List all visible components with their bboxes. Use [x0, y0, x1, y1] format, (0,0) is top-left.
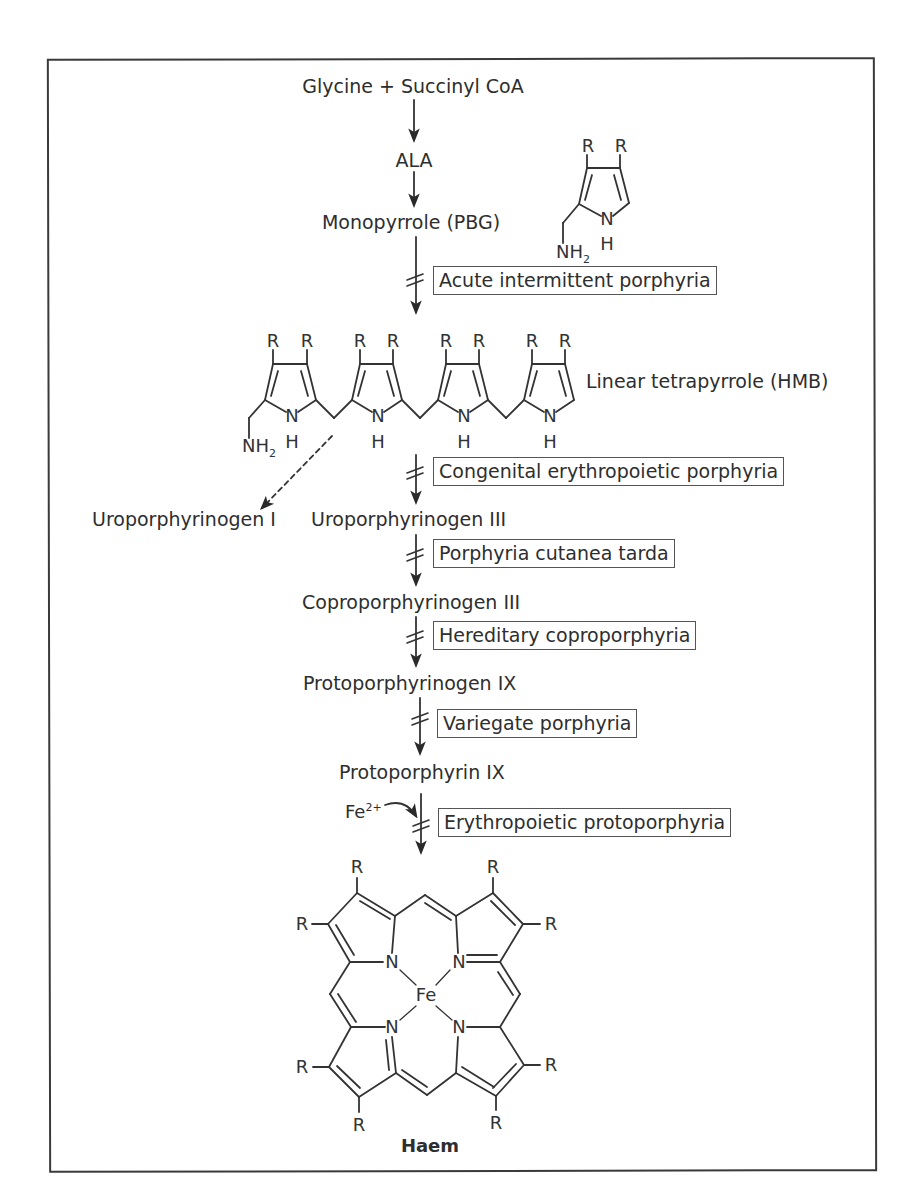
- atom-r: R: [545, 1055, 558, 1075]
- atom-n: N: [452, 1017, 465, 1037]
- porphyria-pathway-diagram: Glycine + Succinyl CoA ALA Monopyrrole (…: [0, 0, 918, 1197]
- step-coproporphyrinogen-iii: Coproporphyrinogen III: [302, 591, 520, 613]
- step-glycine-succinyl-coa: Glycine + Succinyl CoA: [302, 75, 523, 97]
- cofactor-charge: 2+: [365, 801, 381, 814]
- atom-r: R: [487, 857, 500, 877]
- atom-nh-label: NH: [556, 241, 583, 262]
- subscript-2: 2: [583, 253, 590, 266]
- cofactor-fe2plus: Fe2+: [345, 797, 382, 823]
- disorder-acute-intermittent-porphyria: Acute intermittent porphyria: [433, 266, 717, 295]
- atom-r: R: [351, 857, 364, 877]
- step-monopyrrole: Monopyrrole (PBG): [322, 211, 500, 233]
- step-linear-tetrapyrrole: Linear tetrapyrrole (HMB): [586, 370, 828, 392]
- atom-nh2: NH2: [556, 242, 590, 270]
- monopyrrole-structure: [563, 155, 629, 243]
- atom-r: R: [353, 1115, 366, 1135]
- atom-r: R: [545, 914, 558, 934]
- atom-r: R: [387, 331, 400, 351]
- atom-r: R: [301, 331, 314, 351]
- atom-r: R: [354, 331, 367, 351]
- atom-nh-label: NH: [242, 435, 269, 456]
- atom-r: R: [615, 136, 628, 156]
- disorder-hereditary-coproporphyria: Hereditary coproporphyria: [433, 621, 696, 650]
- atom-n: N: [543, 406, 556, 426]
- enzyme-block-icon: [407, 274, 429, 832]
- atom-n: N: [457, 406, 470, 426]
- step-protoporphyrin-ix: Protoporphyrin IX: [339, 761, 505, 783]
- curved-arrow-icon: [385, 803, 416, 816]
- step-haem: Haem: [401, 1135, 459, 1157]
- atom-r: R: [526, 331, 539, 351]
- atom-r: R: [296, 914, 309, 934]
- disorder-erythropoietic-protoporphyria: Erythropoietic protoporphyria: [438, 808, 731, 837]
- disorder-porphyria-cutanea-tarda: Porphyria cutanea tarda: [433, 539, 675, 568]
- atom-r: R: [559, 331, 572, 351]
- atom-r: R: [296, 1057, 309, 1077]
- atom-n: N: [371, 406, 384, 426]
- atom-n: N: [285, 406, 298, 426]
- atom-r: R: [473, 331, 486, 351]
- atom-n: N: [385, 1017, 398, 1037]
- atom-fe: Fe: [416, 985, 436, 1005]
- atom-h: H: [457, 432, 471, 452]
- side-product-uroporphyrinogen-i: Uroporphyrinogen I: [92, 508, 276, 530]
- atom-nh2: NH2: [242, 436, 276, 464]
- disorder-congenital-erythropoietic-porphyria: Congenital erythropoietic porphyria: [433, 457, 784, 486]
- atom-h: H: [543, 432, 557, 452]
- step-ala: ALA: [395, 149, 432, 171]
- atom-h: H: [285, 432, 299, 452]
- atom-h: H: [371, 432, 385, 452]
- atom-r: R: [440, 331, 453, 351]
- atom-h: H: [600, 234, 614, 254]
- atom-r: R: [582, 136, 595, 156]
- cofactor-symbol: Fe: [345, 801, 365, 822]
- step-protoporphyrinogen-ix: Protoporphyrinogen IX: [303, 672, 516, 694]
- atom-n: N: [600, 209, 613, 229]
- disorder-variegate-porphyria: Variegate porphyria: [437, 709, 637, 738]
- atom-n: N: [452, 952, 465, 972]
- atom-r: R: [267, 331, 280, 351]
- atom-r: R: [490, 1113, 503, 1133]
- atom-n: N: [385, 952, 398, 972]
- step-uroporphyrinogen-iii: Uroporphyrinogen III: [311, 508, 506, 530]
- subscript-2: 2: [269, 447, 276, 460]
